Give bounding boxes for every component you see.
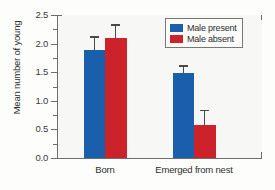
y-tick-minor [53, 58, 57, 59]
legend-label-male-present: Male present [187, 23, 237, 33]
y-tick-label: 2.0 [35, 38, 48, 49]
y-tick-major: 1.5 [51, 72, 57, 73]
plot-frame-right-bottom [261, 152, 262, 159]
y-tick-label: 1.0 [35, 95, 48, 106]
error-bar-cap [111, 24, 120, 25]
y-axis-top-cap [57, 15, 62, 16]
error-bar-cap [90, 36, 99, 37]
bar-chart: 0.00.51.01.52.02.5 Mean number of young … [0, 0, 275, 190]
y-tick-major: 1.0 [51, 101, 57, 102]
error-bar [115, 24, 116, 38]
error-bar [94, 36, 95, 50]
y-tick-minor [53, 115, 57, 116]
plot-frame-right-top [261, 15, 262, 20]
y-tick-minor [53, 29, 57, 30]
bar [105, 38, 127, 158]
legend-swatch-blue-icon [170, 24, 183, 32]
y-tick-major: 2.5 [51, 15, 57, 16]
y-tick-major: 0.5 [51, 129, 57, 130]
error-bar-cap [200, 110, 209, 111]
legend-item-male-absent: Male absent [170, 33, 237, 44]
y-tick-major: 2.0 [51, 44, 57, 45]
y-tick-label: 1.5 [35, 66, 48, 77]
legend-label-male-absent: Male absent [187, 34, 234, 44]
error-bar [204, 110, 205, 125]
bar [194, 125, 216, 158]
bar [173, 73, 195, 158]
y-tick-label: 0.0 [35, 152, 48, 163]
y-tick-label: 0.5 [35, 123, 48, 134]
legend-item-male-present: Male present [170, 22, 237, 33]
y-axis-title: Mean number of young [11, 8, 22, 128]
x-axis-category-label: Emerged from nest [134, 164, 254, 175]
x-axis-line [57, 158, 262, 159]
error-bar-cap [179, 65, 188, 66]
y-axis-line [57, 15, 58, 159]
legend-swatch-red-icon [170, 35, 183, 43]
y-tick-minor [53, 87, 57, 88]
bar [84, 50, 106, 158]
y-tick-major: 0.0 [51, 158, 57, 159]
y-tick-label: 2.5 [35, 9, 48, 20]
y-tick-minor [53, 144, 57, 145]
chart-legend: Male present Male absent [165, 18, 243, 48]
